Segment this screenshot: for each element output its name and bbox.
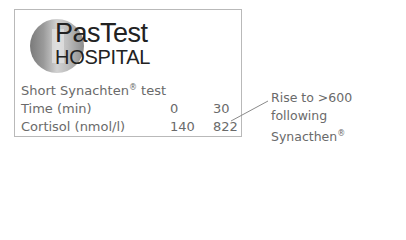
annotation-note: Rise to >600 following Synacthen® xyxy=(271,89,406,145)
annotation-line-2: Synacthen® xyxy=(271,125,406,145)
annotation-line-1: Rise to >600 following xyxy=(271,89,406,125)
